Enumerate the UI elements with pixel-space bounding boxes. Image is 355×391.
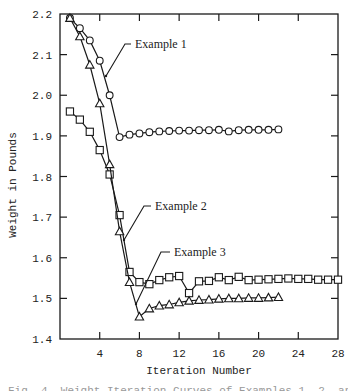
y-tick-label: 1.5 bbox=[32, 293, 52, 305]
y-tick-label: 1.7 bbox=[32, 212, 52, 224]
square-marker bbox=[156, 276, 163, 283]
x-tick-label: 16 bbox=[212, 348, 225, 360]
x-axis-ticks: 481216202428 bbox=[96, 14, 344, 360]
leader-arrow-tip bbox=[105, 75, 107, 77]
square-marker bbox=[255, 276, 262, 283]
circle-marker bbox=[156, 128, 163, 135]
circle-marker bbox=[265, 126, 272, 133]
circle-marker bbox=[146, 129, 153, 136]
x-axis-title: Iteration Number bbox=[146, 365, 252, 377]
circle-marker bbox=[225, 128, 232, 135]
square-marker bbox=[225, 276, 232, 283]
leader-line bbox=[124, 206, 151, 240]
weight-iteration-chart: 1.41.51.61.71.81.92.02.12.2 481216202428… bbox=[0, 0, 355, 391]
square-marker bbox=[195, 278, 202, 285]
square-marker bbox=[324, 276, 331, 283]
y-tick-label: 2.0 bbox=[32, 90, 52, 102]
circle-marker bbox=[76, 25, 83, 32]
circle-marker bbox=[96, 57, 103, 64]
circle-marker bbox=[126, 131, 133, 138]
figure-caption: Fig. 4. Weight Iteration Curves of Examp… bbox=[8, 384, 348, 391]
square-marker bbox=[285, 275, 292, 282]
square-marker bbox=[295, 275, 302, 282]
square-marker bbox=[66, 108, 73, 115]
x-tick-label: 8 bbox=[136, 348, 143, 360]
circle-marker bbox=[166, 128, 173, 135]
square-marker bbox=[275, 275, 282, 282]
x-tick-label: 4 bbox=[96, 348, 103, 360]
triangle-marker bbox=[76, 32, 84, 40]
annotation-label: Example 2 bbox=[155, 199, 207, 213]
x-tick-label: 24 bbox=[292, 348, 306, 360]
y-tick-label: 2.2 bbox=[32, 9, 52, 21]
square-marker bbox=[334, 276, 341, 283]
y-tick-label: 1.9 bbox=[32, 131, 52, 143]
x-tick-label: 12 bbox=[173, 348, 186, 360]
square-marker bbox=[136, 279, 143, 286]
series-example-1 bbox=[67, 15, 282, 141]
circle-marker bbox=[186, 127, 193, 134]
series-line bbox=[70, 18, 278, 137]
square-marker bbox=[205, 277, 212, 284]
x-tick-label: 20 bbox=[252, 348, 265, 360]
annotation-example-2: Example 2 bbox=[123, 199, 207, 241]
square-marker bbox=[245, 276, 252, 283]
triangle-marker bbox=[125, 278, 133, 286]
y-tick-label: 2.1 bbox=[32, 50, 52, 62]
circle-marker bbox=[86, 37, 93, 44]
y-tick-label: 1.8 bbox=[32, 172, 52, 184]
square-marker bbox=[76, 116, 83, 123]
annotation-label: Example 3 bbox=[174, 245, 226, 259]
square-marker bbox=[96, 146, 103, 153]
triangle-marker bbox=[96, 99, 104, 107]
annotation-example-1: Example 1 bbox=[105, 37, 187, 77]
y-tick-label: 1.4 bbox=[32, 334, 52, 346]
annotation-label: Example 1 bbox=[135, 37, 187, 51]
square-marker bbox=[215, 274, 222, 281]
square-marker bbox=[265, 276, 272, 283]
leader-arrow-tip bbox=[135, 303, 137, 305]
circle-marker bbox=[196, 127, 203, 134]
circle-marker bbox=[215, 126, 222, 133]
series-annotations: Example 1Example 2Example 3 bbox=[105, 37, 226, 305]
square-marker bbox=[315, 276, 322, 283]
circle-marker bbox=[275, 126, 282, 133]
circle-marker bbox=[116, 134, 123, 141]
triangle-marker bbox=[105, 160, 113, 168]
y-axis-title: Weight in Pounds bbox=[7, 132, 19, 238]
square-marker bbox=[166, 274, 173, 281]
triangle-marker bbox=[86, 61, 94, 69]
data-series bbox=[66, 14, 342, 320]
circle-marker bbox=[176, 127, 183, 134]
circle-marker bbox=[206, 127, 213, 134]
circle-marker bbox=[255, 126, 262, 133]
y-tick-label: 1.6 bbox=[32, 253, 52, 265]
x-tick-label: 28 bbox=[331, 348, 344, 360]
square-marker bbox=[305, 275, 312, 282]
leader-line bbox=[106, 44, 131, 76]
circle-marker bbox=[136, 130, 143, 137]
square-marker bbox=[86, 128, 93, 135]
circle-marker bbox=[235, 127, 242, 134]
square-marker bbox=[106, 171, 113, 178]
circle-marker bbox=[245, 126, 252, 133]
square-marker bbox=[235, 273, 242, 280]
square-marker bbox=[176, 272, 183, 279]
circle-marker bbox=[106, 92, 113, 99]
leader-arrow-tip bbox=[123, 239, 125, 241]
